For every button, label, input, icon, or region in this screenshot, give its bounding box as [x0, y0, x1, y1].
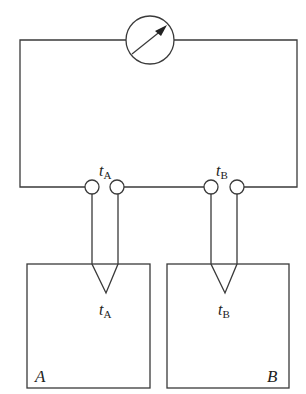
probe-b-wires [211, 194, 237, 293]
thermocouple-diagram: tA tB tA tB A B [0, 0, 306, 394]
probe-a [92, 194, 118, 293]
probe-label-b: tB [218, 301, 230, 320]
wire-right [174, 40, 297, 187]
probe-a-wires [92, 194, 118, 293]
block-a [27, 264, 150, 388]
probe-label-a: tA [99, 301, 111, 320]
wire-left [20, 40, 126, 187]
terminal-b-left [204, 180, 218, 194]
block-a-label: A [34, 367, 46, 386]
block-b-label: B [267, 367, 278, 386]
probe-b [211, 194, 237, 293]
terminal-label-a: tA [99, 162, 111, 181]
terminal-a-right [110, 180, 124, 194]
terminal-a-left [85, 180, 99, 194]
meter-needle [132, 30, 162, 54]
terminal-label-b: tB [216, 162, 228, 181]
meter [126, 16, 174, 64]
terminal-b-right [230, 180, 244, 194]
